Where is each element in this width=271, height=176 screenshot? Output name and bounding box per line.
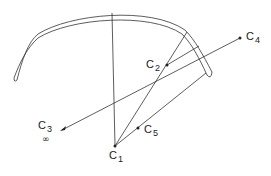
label-c3: C3 bbox=[38, 120, 52, 131]
point-c4 bbox=[239, 37, 242, 40]
label-c4: C4 bbox=[246, 31, 260, 42]
label-c3-infinity: ∞ bbox=[42, 134, 50, 144]
arc-outer bbox=[17, 15, 212, 80]
label-c2: C2 bbox=[146, 59, 160, 70]
line-c1-top bbox=[112, 13, 115, 146]
arrow-c3 bbox=[60, 126, 66, 131]
line-c1-c5-tip bbox=[115, 73, 206, 146]
arc-inner bbox=[14, 20, 207, 78]
tip-left bbox=[14, 78, 17, 81]
label-c5: C5 bbox=[144, 124, 158, 135]
diagram-canvas bbox=[0, 0, 271, 176]
point-c5 bbox=[137, 127, 140, 130]
point-c1 bbox=[114, 145, 117, 148]
point-c2 bbox=[166, 64, 169, 67]
label-c1: C1 bbox=[109, 150, 123, 161]
tip-right bbox=[207, 72, 212, 77]
line-c3-c4 bbox=[62, 38, 240, 130]
